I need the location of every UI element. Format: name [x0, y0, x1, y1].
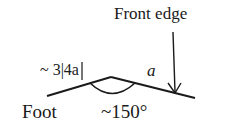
ratio-label: ~ 3|4a — [40, 62, 79, 78]
front-edge-label: Front edge — [114, 5, 187, 22]
angle-label: ~150° — [101, 102, 147, 121]
angle-arc — [90, 83, 135, 94]
front-side-line — [111, 77, 195, 98]
foot-label: Foot — [22, 102, 57, 121]
front-edge-arrow-shaft — [173, 32, 175, 92]
blade-profile-diagram: Front edge ~ 3|4a a Foot ~150° — [0, 0, 235, 135]
foot-side-line — [47, 77, 111, 96]
length-a-label: a — [147, 62, 156, 79]
